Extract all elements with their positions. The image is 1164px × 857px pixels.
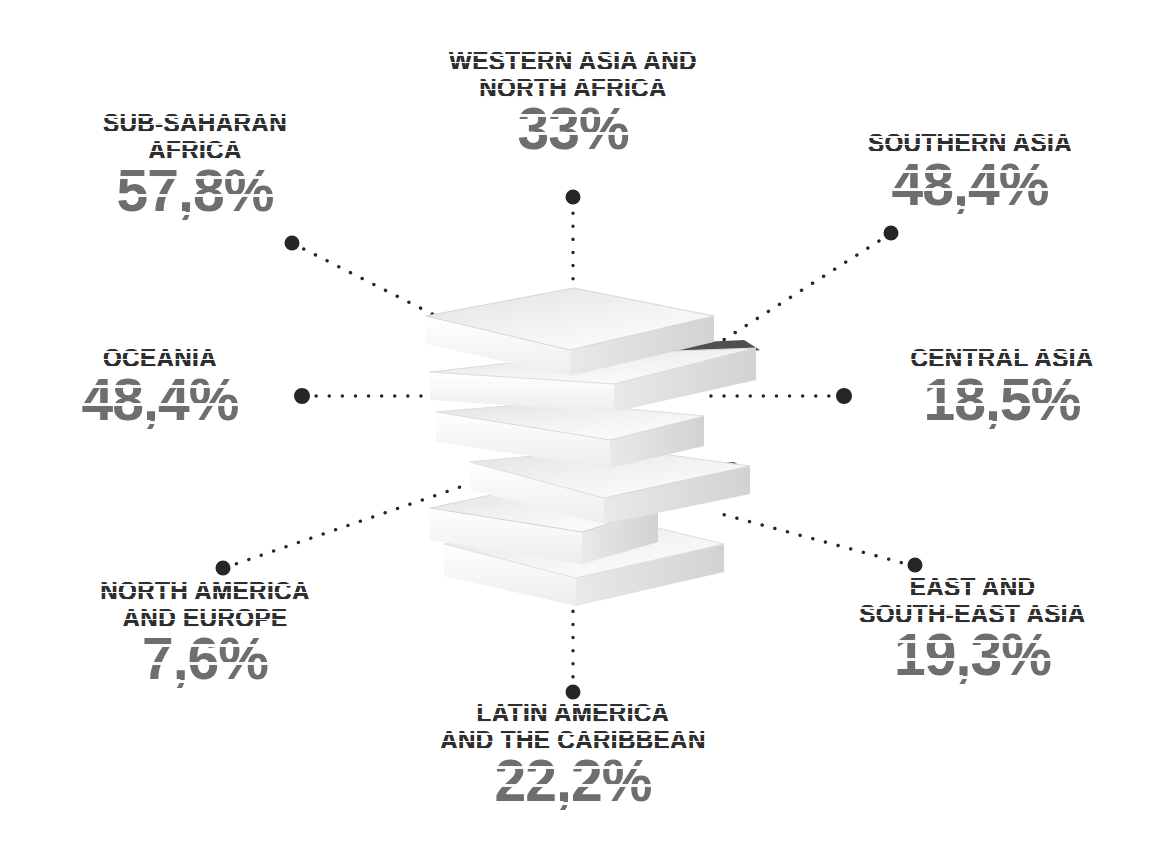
label-southern-asia: SOUTHERN ASIA 48,4% xyxy=(810,130,1130,215)
region-name-latin-america-caribbean: LATIN AMERICA AND THE CARIBBEAN xyxy=(392,700,755,753)
label-north-america-europe: NORTH AMERICA AND EUROPE 7,6% xyxy=(40,578,370,689)
label-western-asia-north-africa: WESTERN ASIA AND NORTH AFRICA 33% xyxy=(383,48,763,159)
book-stack-illustration xyxy=(404,276,764,606)
region-percent-east-south-east-asia: 19,3% xyxy=(809,625,1137,685)
region-name-sub-saharan-africa: SUB-SAHARAN AFRICA xyxy=(42,110,349,163)
label-oceania: OCEANIA 48,4% xyxy=(25,345,295,430)
region-percent-central-asia: 18,5% xyxy=(869,370,1135,430)
region-name-line1: NORTH AMERICA xyxy=(100,578,309,605)
region-name-line1: LATIN AMERICA xyxy=(477,700,670,727)
connector-dot-western-asia-north-africa xyxy=(566,190,581,205)
label-sub-saharan-africa: SUB-SAHARAN AFRICA 57,8% xyxy=(30,110,360,221)
book-stack-svg xyxy=(404,276,764,606)
region-percent-sub-saharan-africa: 57,8% xyxy=(38,161,352,221)
label-east-south-east-asia: EAST AND SOUTH-EAST ASIA 19,3% xyxy=(800,574,1145,685)
label-latin-america-caribbean: LATIN AMERICA AND THE CARIBBEAN 22,2% xyxy=(378,700,768,811)
connector-dot-oceania xyxy=(294,388,310,404)
region-name-western-asia-north-africa: WESTERN ASIA AND NORTH AFRICA xyxy=(396,48,749,101)
infographic-canvas: SUB-SAHARAN AFRICA 57,8% WESTERN ASIA AN… xyxy=(0,0,1164,857)
region-name-line1: SUB-SAHARAN xyxy=(103,110,287,137)
region-percent-oceania: 48,4% xyxy=(32,370,289,430)
connector-dot-southern-asia xyxy=(884,226,899,241)
label-central-asia: CENTRAL ASIA 18,5% xyxy=(862,345,1142,430)
connector-dot-sub-saharan-africa xyxy=(285,236,300,251)
region-percent-north-america-europe: 7,6% xyxy=(48,629,362,689)
region-percent-latin-america-caribbean: 22,2% xyxy=(388,751,759,811)
connector-dot-north-america-europe xyxy=(216,561,231,576)
region-name-east-south-east-asia: EAST AND SOUTH-EAST ASIA xyxy=(812,574,1133,627)
region-name-north-america-europe: NORTH AMERICA AND EUROPE xyxy=(52,578,359,631)
connector-dot-east-south-east-asia xyxy=(908,558,923,573)
region-percent-southern-asia: 48,4% xyxy=(818,155,1122,215)
region-name-line1: WESTERN ASIA AND xyxy=(449,48,697,75)
region-name-line1: EAST AND xyxy=(910,574,1036,601)
connector-dot-central-asia xyxy=(836,388,852,404)
region-percent-western-asia-north-africa: 33% xyxy=(393,99,754,159)
